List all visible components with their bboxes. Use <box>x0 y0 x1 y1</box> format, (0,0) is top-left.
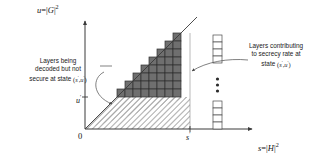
right-annotation-line3: state (s′,u′) <box>232 58 320 68</box>
vertical-ellipsis-icon <box>216 77 219 92</box>
right-state-close: ) <box>288 61 290 68</box>
left-annotation-line3: secure at state (s′,u′) <box>8 73 108 83</box>
right-annotation-line3-text: state <box>261 61 277 68</box>
left-annotation: Layers being decoded but not secure at s… <box>8 57 108 84</box>
left-annotation-line3-text: secure at state <box>29 76 73 83</box>
x-axis-exponent: 2 <box>276 142 279 148</box>
right-annotation: Layers contributing to secrecy rate at s… <box>232 42 320 69</box>
y-axis-label: u=|G|2 <box>37 4 59 15</box>
right-annotation-line2: to secrecy rate at <box>232 50 320 58</box>
figure-canvas: u=|G|2 s=|H|2 0 s′ u′ Layers being decod… <box>0 0 322 163</box>
left-annotation-line2: decoded but not <box>8 65 108 73</box>
top-layer-stack <box>213 35 222 63</box>
y-axis-exponent: 2 <box>56 4 59 10</box>
x-axis-label: s=|H|2 <box>258 142 279 153</box>
x-tick-label-sprime: s′ <box>186 131 190 142</box>
x-tick-prime: ′ <box>189 131 190 137</box>
right-annotation-line1: Layers contributing <box>232 42 320 50</box>
y-tick-label-uprime: u′ <box>76 94 81 105</box>
left-annotation-line1: Layers being <box>8 57 108 65</box>
bottom-layer-stack <box>213 101 222 129</box>
origin-label: 0 <box>78 131 82 141</box>
left-state-close: ) <box>85 76 87 83</box>
y-tick-prime: ′ <box>80 94 81 100</box>
